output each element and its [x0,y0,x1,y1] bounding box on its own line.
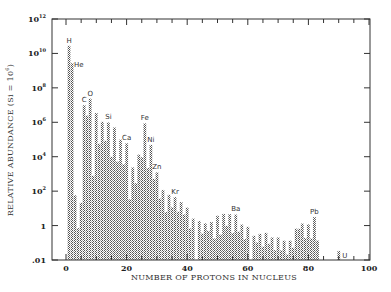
bar-z49 [213,238,216,260]
bar-z3 [74,195,77,260]
bar-z62 [252,236,255,260]
bar-z34 [168,195,171,260]
bar-z9 [92,176,95,260]
bar-z72 [283,241,286,260]
bar-z41 [189,228,192,260]
y-tick-label: 108 [31,82,46,93]
bar-z7 [86,115,89,260]
x-axis-label: NUMBER OF PROTONS IN NUCLEUS [131,273,297,282]
bar-z58 [240,224,243,260]
element-label-ca: Ca [122,134,131,142]
bar-z35 [171,207,174,260]
bar-z56 [234,214,237,260]
abundance-chart: 101210101081061041021.01 020406080100 HH… [0,0,391,292]
bar-z30 [155,172,158,260]
bar-z15 [110,157,113,260]
element-label-zn: Zn [152,163,161,171]
bar-z4 [77,228,80,260]
y-tick-label: 104 [31,151,46,162]
x-tick-label: 20 [121,263,133,273]
y-tick-label: 1 [40,221,46,231]
element-label-ba: Ba [231,205,240,213]
bar-z18 [119,140,122,261]
bar-z64 [258,234,261,260]
bar-z38 [180,202,183,260]
bar-z54 [228,214,231,260]
bar-z20 [125,143,128,260]
bar-z31 [158,198,161,260]
bar-z68 [271,237,274,260]
bar-z66 [264,233,267,260]
bar-z47 [207,231,210,260]
bar-z55 [231,233,234,260]
bar-z5 [80,203,83,260]
y-tick-label: 106 [31,116,46,127]
bar-z81 [310,238,313,260]
element-label-fe: Fe [141,114,149,122]
bar-z23 [134,183,137,260]
bar-z74 [289,241,292,260]
bar-z33 [164,212,167,260]
bar-z13 [104,141,107,260]
bar-z51 [219,235,222,260]
bar-z63 [255,242,258,260]
bar-z17 [116,162,119,260]
element-label-c: C [82,96,87,104]
bar-z12 [101,122,104,260]
element-label-o: O [87,90,93,98]
y-tick-label: .01 [32,255,46,265]
bar-z14 [107,122,110,260]
y-tick-label: 1010 [28,47,47,58]
bar-z69 [274,250,277,260]
bar-z48 [210,222,213,260]
bar-z2 [71,63,74,260]
bar-z39 [183,214,186,260]
element-label-si: Si [105,113,111,121]
bar-z27 [146,168,149,260]
element-label-pb: Pb [310,208,319,216]
bar-z57 [237,232,240,260]
x-tick-label: 60 [242,263,254,273]
bar-z44 [198,221,201,260]
bar-z29 [152,179,155,260]
element-label-h: H [66,37,71,45]
x-tick-label: 100 [361,263,378,273]
x-tick-label: 40 [182,263,194,273]
y-tick-label: 1012 [28,13,47,24]
bar-z82 [313,217,316,260]
element-label-ni: Ni [147,136,154,144]
bar-z36 [174,197,177,260]
bar-z32 [161,190,164,260]
bar-z21 [128,199,131,260]
bar-z28 [149,145,152,260]
bar-z42 [192,219,195,260]
bar-z10 [95,113,98,260]
y-tick-label: 102 [31,185,46,196]
bar-z22 [131,167,134,260]
bar-z76 [295,228,298,260]
bar-z73 [286,254,289,260]
element-label-kr: Kr [171,188,179,196]
bar-z52 [222,214,225,260]
bar-z6 [83,105,86,260]
bar-z25 [140,157,143,260]
bar-z53 [225,226,228,260]
bar-z24 [137,154,140,260]
bar-z46 [204,223,207,260]
bar-z78 [301,223,304,260]
bar-z40 [186,207,189,260]
bar-z67 [267,244,270,260]
bar-z37 [177,212,180,260]
bar-z8 [89,99,92,260]
bar-z79 [304,238,307,260]
bar-z83 [316,240,319,260]
y-axis-label: RELATIVE ABUNDANCE (Si = 106) [4,64,15,216]
bar-z1 [68,46,71,260]
element-label-he: He [74,61,84,69]
bar-z11 [98,144,101,260]
bar-z77 [298,229,301,260]
bar-z50 [216,216,219,260]
x-tick-label: 0 [63,263,69,273]
bar-z16 [113,127,116,260]
bar-z71 [280,250,283,260]
